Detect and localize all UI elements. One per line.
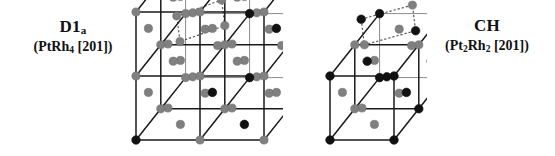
plane-marker-ch [361,5,415,45]
atom-corner-dark [390,136,399,145]
atom-face-light [233,57,241,65]
atom-face-light [169,0,177,1]
atom-corner-dark [326,136,335,145]
atom-face-light [265,89,273,97]
atom-corner-dark [132,136,141,145]
atom-face-light [189,73,197,81]
atom-face-light [408,42,416,50]
crystal-lattice-ch [312,0,427,156]
atom-face-light [169,57,177,65]
lattice-edge [200,109,225,140]
atom-face-light [144,24,152,32]
atom-corner-light [415,41,423,49]
atom-face-light [228,40,236,48]
lattice-edge [161,78,186,109]
atom-corner-light [260,136,268,144]
structure-title-ch-main: CH [474,16,500,35]
atom-face-dark [363,57,372,66]
atom-face-light [240,56,248,64]
atom-corner-light [196,8,204,16]
formula-d1a-prefix: (PtRh [33,39,69,54]
atom-face-light [278,42,284,50]
lattice-edge [419,78,427,109]
plane-marker-d1a [177,0,225,42]
lattice-edge [136,109,161,140]
atom-corner-light [157,105,165,113]
atom-corner-dark [245,73,254,82]
atom-face-light [144,88,152,96]
atom-face-light [164,104,172,112]
atom-face-light [176,56,184,64]
plane-indicator-201 [361,5,415,45]
atom-face-light [228,104,236,112]
atom-face-light [272,88,280,96]
atom-plane-light [408,1,416,9]
atom-corner-dark [375,9,384,18]
atom-corner-dark [375,73,384,82]
atom-corner-light [351,41,359,49]
atom-face-light [201,25,209,33]
atom-corner-light [260,8,268,16]
atom-plane-dark [411,26,420,35]
atom-face-dark [240,120,249,129]
lattice-edge [200,45,225,76]
formula-ch-suffix: [201]) [490,38,529,53]
lattice-atoms-d1a [132,0,283,144]
atom-plane-dark [357,15,366,24]
atom-corner-light [132,72,140,80]
atom-corner-light [351,105,359,113]
atom-face-light [214,42,222,50]
atom-face-light [370,120,378,128]
atom-corner-light [132,8,140,16]
atom-plane-light [173,12,181,20]
atom-plane-light [221,22,229,30]
crystal-lattice-d1a [118,0,283,156]
lattice-edges-front [136,0,283,140]
atom-face-light [176,0,184,1]
plane-indicator-201 [177,0,225,42]
atom-corner-light [260,72,268,80]
atom-corner-light [196,136,204,144]
lattice-edge [264,109,283,140]
lattice-edge [330,109,355,140]
atom-plane-light [360,41,368,49]
lattice-edge [330,45,355,76]
lattice-edge [355,78,380,109]
atom-face-light [338,88,346,96]
atom-corner-light [196,72,204,80]
lattice-atoms-ch [326,1,427,144]
atom-face-light [358,104,366,112]
formula-ch-mid: Rh [468,38,486,53]
formula-d1a-suffix: [201]) [74,39,113,54]
structure-title-d1a-main: D1 [59,17,80,36]
atom-face-dark [208,88,217,97]
atom-face-light [164,40,172,48]
atom-face-light [176,120,184,128]
lattice-edge [394,109,419,140]
atom-plane-light [176,38,184,46]
atom-face-dark [402,88,411,97]
lattice-edge [225,78,250,109]
lattice-edge [394,45,419,76]
atom-corner-dark [415,105,424,114]
atom-face-light [395,25,403,33]
atom-corner-dark [326,72,335,81]
structure-formula-ch: (Pt2Rh2 [201]) [424,38,550,55]
atom-face-light [240,0,248,1]
formula-ch-prefix: (Pt [445,38,463,53]
atom-face-light [189,9,197,17]
lattice-edge [136,45,161,76]
lattice-edge [225,14,250,45]
lattice-edge [419,14,427,45]
atom-corner-light [157,41,165,49]
atom-face-dark [272,24,281,33]
atom-corner-light [182,74,190,82]
crystal-structure-figure: D1a (PtRh4 [201]) CH (Pt2Rh2 [201]) [0,0,555,156]
atom-corner-dark [390,72,399,81]
atom-face-light [208,24,216,32]
structure-title-ch: CH [424,16,550,36]
atom-corner-light [221,41,229,49]
structure-title-d1a-sub: a [81,24,87,36]
atom-face-light [233,0,241,1]
atom-corner-light [182,10,190,18]
